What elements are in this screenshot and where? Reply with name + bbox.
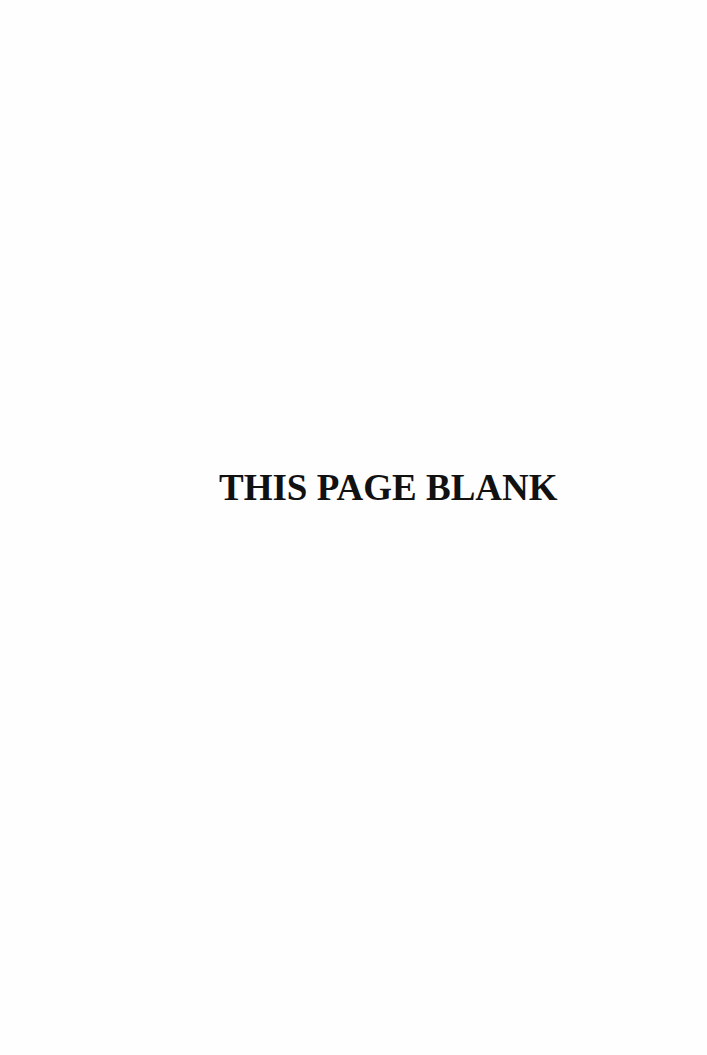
blank-page-notice: THIS PAGE BLANK (219, 466, 553, 510)
document-page: THIS PAGE BLANK (0, 0, 707, 1055)
